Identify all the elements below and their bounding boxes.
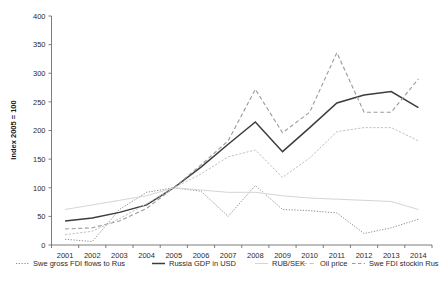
y-tick-label: 100 (33, 184, 46, 193)
x-tick-label: 2008 (247, 251, 264, 260)
legend-label: RUB/SEK (272, 259, 305, 268)
y-tick-label: 400 (33, 12, 46, 21)
y-axis: 050100150200250300350400 (33, 12, 52, 250)
chart-legend: Swe gross FDI flows to RusRussia GDP in … (16, 259, 439, 268)
series-line (65, 53, 418, 229)
legend-label: Oil price (320, 259, 348, 268)
y-tick-label: 300 (33, 69, 46, 78)
y-tick-label: 250 (33, 98, 46, 107)
x-tick-label: 2004 (138, 251, 155, 260)
y-axis-title: Index 2005 = 100 (9, 100, 18, 159)
legend-label: Russia GDP in USD (169, 259, 237, 268)
series-line (65, 188, 418, 210)
y-tick-label: 150 (33, 155, 46, 164)
series-lines (65, 53, 418, 242)
legend-label: Swe FDI stockin Rus (369, 259, 439, 268)
series-line (65, 185, 418, 241)
line-chart: 050100150200250300350400 200120022003200… (0, 0, 439, 285)
y-tick-label: 200 (33, 126, 46, 135)
y-tick-label: 350 (33, 40, 46, 49)
series-line (65, 128, 418, 235)
chart-container: 050100150200250300350400 200120022003200… (0, 0, 439, 285)
legend-label: Swe gross FDI flows to Rus (33, 259, 125, 268)
x-axis: 2001200220032004200520062007200820092010… (52, 245, 433, 260)
y-tick-label: 0 (41, 241, 45, 250)
y-tick-label: 50 (37, 212, 45, 221)
